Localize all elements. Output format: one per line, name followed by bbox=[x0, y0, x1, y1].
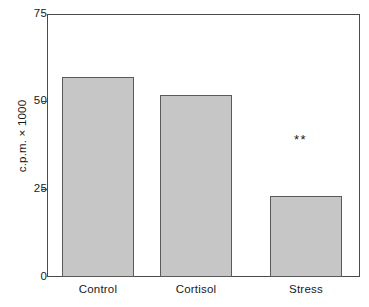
bar-stress bbox=[270, 196, 342, 277]
significance-annotation-stress: ** bbox=[294, 133, 307, 146]
y-tick-label-0: 0 bbox=[7, 271, 47, 283]
bar-control bbox=[62, 77, 134, 277]
bar-cortisol bbox=[160, 95, 232, 277]
x-tick-label-control: Control bbox=[58, 283, 138, 295]
bar-chart-figure: c.p.m. × 1000 75 50 25 0 ** Control Cort… bbox=[0, 0, 369, 307]
x-tick-label-stress: Stress bbox=[266, 283, 346, 295]
y-tick-mark-25 bbox=[41, 189, 48, 190]
x-tick-label-cortisol: Cortisol bbox=[156, 283, 236, 295]
y-tick-label-75: 75 bbox=[7, 8, 47, 20]
y-tick-mark-50 bbox=[41, 101, 48, 102]
